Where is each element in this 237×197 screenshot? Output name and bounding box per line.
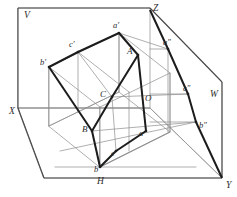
label-plane-W: W — [210, 89, 219, 99]
vertex-dot-b-double-prime — [195, 121, 198, 124]
label-proj-a-double-prime: a″ — [163, 37, 171, 47]
label-proj-a: a — [139, 128, 143, 138]
label-proj-c-prime: c′ — [69, 39, 75, 49]
vertex-dot-A — [137, 54, 140, 57]
vertex-dot-c — [115, 150, 118, 153]
label-proj-c: c — [111, 148, 115, 158]
plane-h-outline — [18, 108, 222, 178]
label-proj-b-prime: b′ — [40, 57, 46, 67]
label-plane-H: H — [96, 176, 105, 186]
label-axis-Z: Z — [153, 3, 159, 13]
vertex-dot-a — [145, 130, 148, 133]
label-origin-O: O — [145, 93, 152, 103]
triangle-profile-abc — [168, 49, 196, 122]
projector-C-down — [112, 97, 116, 151]
plane-v-outline — [18, 8, 150, 108]
box-frontal-face — [49, 33, 119, 126]
triangle-frontal-abc — [49, 33, 119, 67]
label-axis-X: X — [8, 106, 16, 116]
triangle-space-ABC — [92, 55, 138, 131]
label-proj-b: b — [94, 164, 98, 174]
label-vertex-A: A — [126, 46, 133, 56]
triangle-edge-b-double-prime-Y — [196, 122, 222, 178]
vertex-dot-C — [111, 96, 114, 99]
frame-x-to-h — [18, 108, 44, 178]
h-grid-line-1 — [60, 122, 196, 151]
label-proj-a-prime: a′ — [113, 20, 119, 30]
label-vertex-C: C — [100, 89, 107, 99]
vertex-dot-c-prime — [77, 51, 80, 54]
label-axis-Y: Y — [226, 180, 233, 190]
label-proj-b-double-prime: b″ — [199, 120, 207, 130]
frame-z-to-w — [150, 8, 222, 82]
projection-diagram: X Y Z V W H O A B C a′ b′ c′ a b c a″ b″… — [0, 0, 237, 197]
vertex-dot-c-double-prime — [187, 93, 190, 96]
vertex-dot-B — [91, 130, 94, 133]
projector-b-to-w — [92, 122, 196, 131]
vertex-dot-a-double-prime — [167, 48, 170, 51]
label-proj-c-double-prime: c″ — [183, 83, 191, 93]
depth-edge-b — [49, 67, 100, 107]
label-vertex-B: B — [82, 124, 88, 134]
vertex-dot-b-prime — [48, 66, 51, 69]
label-plane-V: V — [24, 10, 31, 20]
vertex-dot-a-prime — [118, 32, 121, 35]
triangle-edge-b-prime-B — [49, 67, 92, 131]
vertex-dot-b — [99, 166, 102, 169]
